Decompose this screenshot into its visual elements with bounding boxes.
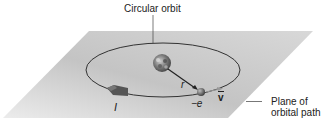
- electron: [197, 88, 205, 96]
- plane-label-line2: orbital path: [271, 107, 320, 118]
- plane-label-line1: Plane of: [271, 96, 320, 107]
- electron-charge-label: −e: [191, 98, 202, 109]
- velocity-bar: [218, 91, 224, 92]
- current-label: I: [114, 101, 117, 113]
- circular-orbit-label: Circular orbit: [124, 3, 181, 14]
- velocity-label: v: [218, 92, 224, 103]
- orbital-plane: [3, 31, 313, 118]
- radius-label: r: [181, 79, 184, 90]
- plane-leader: [246, 101, 262, 102]
- plane-label: Plane of orbital path: [271, 96, 320, 118]
